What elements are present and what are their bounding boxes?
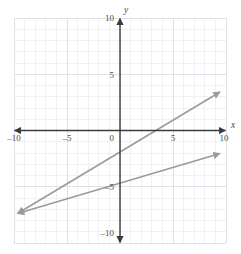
y-tick-label-5: 5: [110, 70, 115, 80]
x-axis-label: x: [230, 120, 236, 130]
y-tick-label-10: 10: [105, 13, 115, 23]
coordinate-plane-figure: –10 –5 5 10 10 5 –5 –10 0 x y: [0, 0, 241, 254]
origin-label: 0: [110, 133, 115, 143]
x-tick-label-5: 5: [171, 133, 176, 143]
y-tick-label-neg10: –10: [100, 228, 115, 238]
x-tick-label-10: 10: [220, 133, 230, 143]
graph-canvas: –10 –5 5 10 10 5 –5 –10 0 x y: [0, 0, 241, 254]
y-tick-label-neg5: –5: [104, 182, 115, 192]
x-tick-label-neg5: –5: [62, 133, 73, 143]
x-tick-label-neg10: –10: [6, 133, 21, 143]
y-axis-label: y: [123, 5, 129, 15]
